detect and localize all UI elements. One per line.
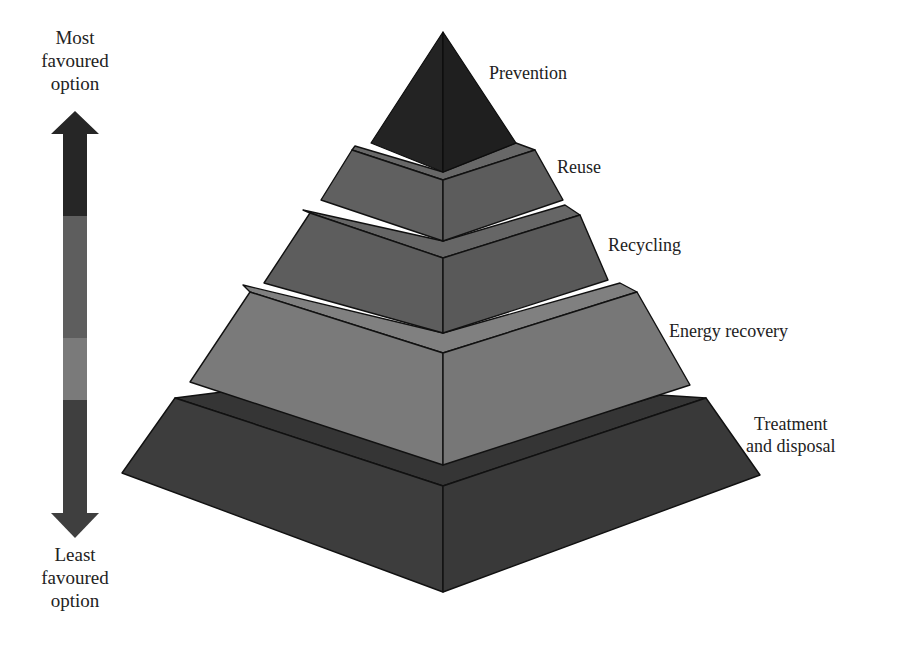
tier-label-prevention: Prevention xyxy=(489,62,567,84)
arrow-up-head-icon xyxy=(51,111,99,136)
arrow-segment-energy-recovery xyxy=(63,338,87,400)
least-favoured-line-1: Least xyxy=(5,543,145,566)
tier-label-recycling: Recycling xyxy=(608,234,681,256)
most-favoured-label: Most favoured option xyxy=(5,26,145,95)
tier-label-reuse: Reuse xyxy=(557,156,601,178)
least-favoured-line-2: favoured xyxy=(5,566,145,589)
arrow-segment-treatment-disposal xyxy=(63,400,87,515)
tier-label-treatment-line-2: and disposal xyxy=(746,435,836,457)
most-favoured-line-3: option xyxy=(5,72,145,95)
tier-label-energy-recovery: Energy recovery xyxy=(669,320,788,342)
least-favoured-label: Least favoured option xyxy=(5,543,145,612)
tier-prevention xyxy=(371,32,516,172)
arrow-segment-reuse-recycling xyxy=(63,216,87,338)
arrow-segment-prevention xyxy=(63,134,87,216)
least-favoured-line-3: option xyxy=(5,589,145,612)
tier-label-treatment-disposal: Treatment and disposal xyxy=(746,413,836,457)
preference-arrow xyxy=(51,111,99,538)
arrow-down-head-icon xyxy=(51,513,99,538)
most-favoured-line-2: favoured xyxy=(5,49,145,72)
most-favoured-line-1: Most xyxy=(5,26,145,49)
tier-label-treatment-line-1: Treatment xyxy=(746,413,836,435)
